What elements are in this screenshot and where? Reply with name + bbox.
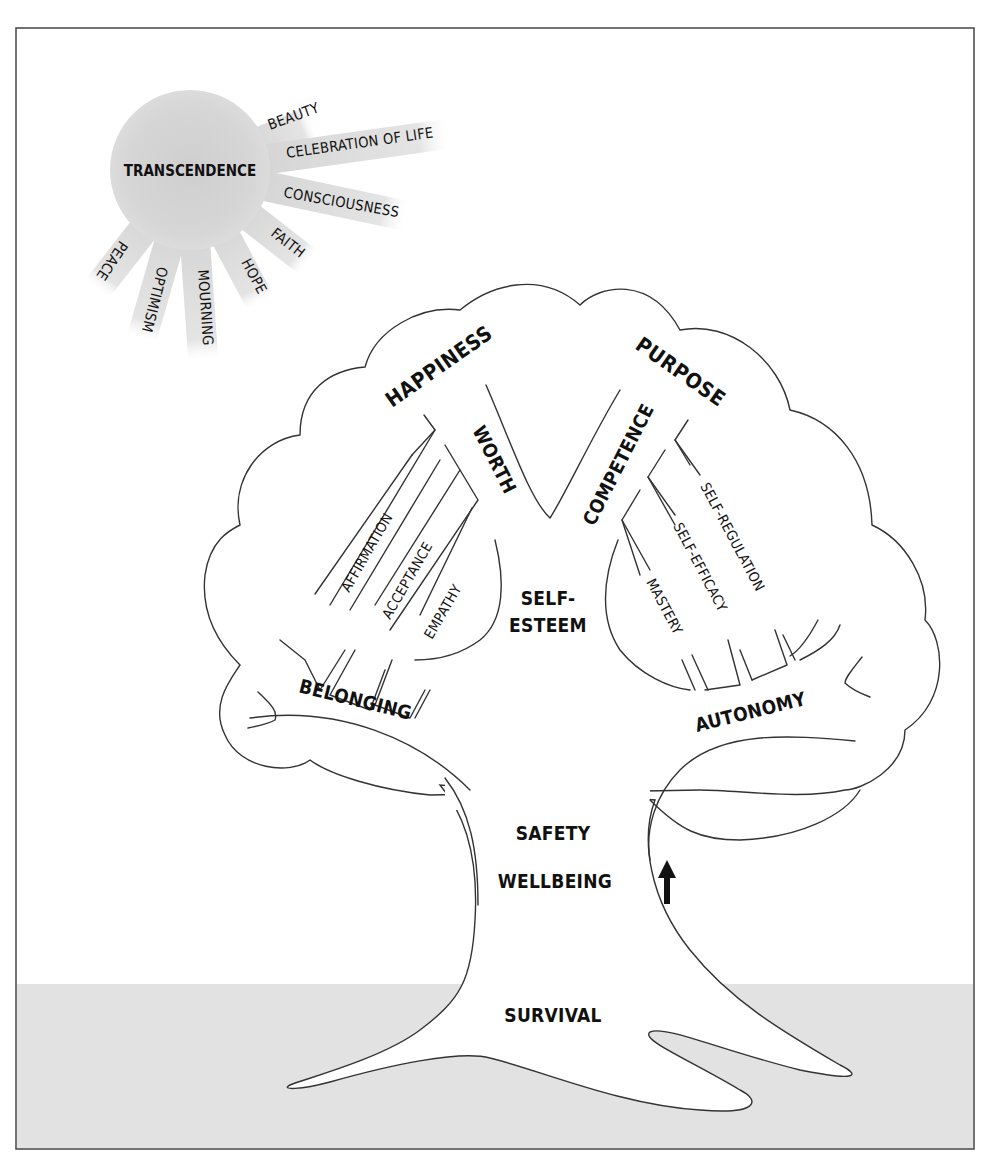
sun-label: TRANSCENDENCE [124,162,256,180]
label-survival: SURVIVAL [504,1004,601,1026]
label-self-esteem-2: ESTEEM [509,614,587,636]
label-self-esteem-1: SELF- [521,587,576,609]
tree-of-needs-diagram: TRANSCENDENCE BEAUTY CELEBRATION OF LIFE… [0,0,989,1163]
label-safety: SAFETY [516,822,591,844]
label-wellbeing: WELLBEING [498,870,612,892]
